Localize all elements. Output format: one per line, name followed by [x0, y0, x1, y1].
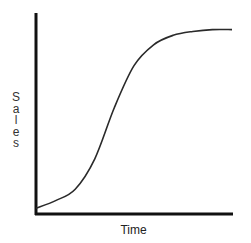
x-axis-label: Time: [0, 223, 251, 237]
sales-curve: [36, 29, 232, 208]
y-axis-label-letter: s: [13, 138, 19, 150]
sales-time-chart: [0, 0, 251, 243]
y-axis-label: S a l e s: [9, 92, 23, 150]
